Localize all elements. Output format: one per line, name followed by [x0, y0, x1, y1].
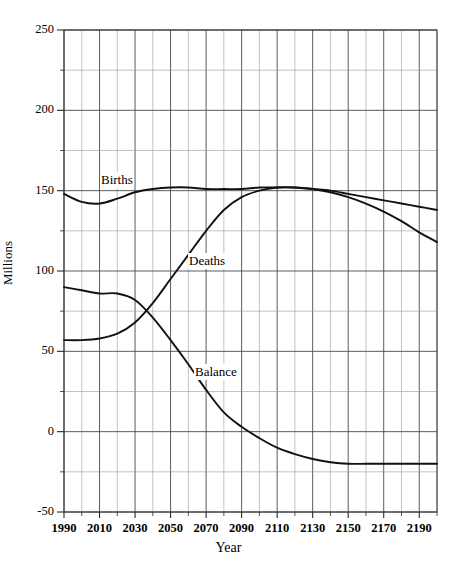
y-tick-label: 0: [10, 425, 54, 437]
data-curves: [64, 187, 437, 464]
y-tick-label: 250: [10, 23, 54, 35]
y-tick-label: 150: [10, 184, 54, 196]
x-axis-title: Year: [0, 540, 457, 556]
population-projection-chart: Millions Year -50050100150200250 1990201…: [0, 0, 457, 576]
x-tick-label: 2190: [396, 522, 442, 534]
y-tick-label: 50: [10, 344, 54, 356]
chart-title-fragment: [0, 0, 457, 10]
series-label-births: Births: [100, 172, 134, 188]
curve-deaths: [64, 187, 437, 340]
y-tick-label: 200: [10, 103, 54, 115]
series-label-balance: Balance: [194, 364, 238, 380]
minor-gridlines: [64, 30, 437, 512]
y-axis-title: Millions: [0, 228, 16, 298]
curve-balance: [64, 287, 437, 464]
y-tick-label: -50: [10, 505, 54, 517]
series-label-deaths: Deaths: [188, 253, 226, 269]
y-tick-label: 100: [10, 264, 54, 276]
axis-ticks: [57, 30, 437, 518]
plot-canvas: [0, 0, 457, 576]
